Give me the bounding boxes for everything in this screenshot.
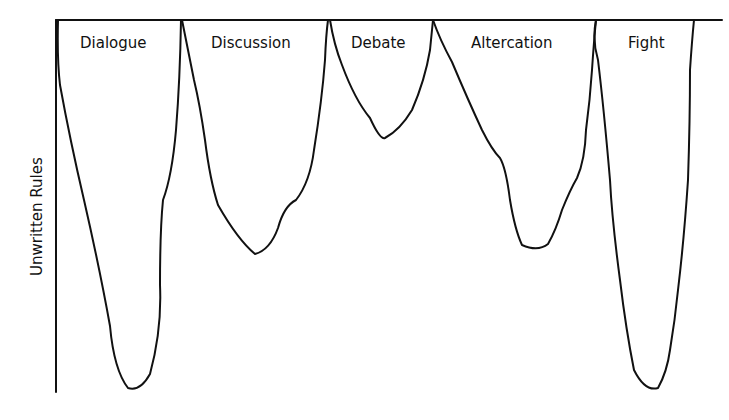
- category-label-fight: Fight: [628, 34, 665, 52]
- y-axis-label: Unwritten Rules: [28, 157, 46, 276]
- category-label-debate: Debate: [351, 34, 406, 52]
- funnel-discussion: [182, 20, 328, 254]
- funnel-altercation: [433, 20, 596, 248]
- category-label-altercation: Altercation: [471, 34, 553, 52]
- unwritten-rules-diagram: [0, 0, 729, 420]
- category-label-dialogue: Dialogue: [80, 34, 147, 52]
- funnel-fight: [594, 20, 694, 389]
- category-label-discussion: Discussion: [211, 34, 291, 52]
- funnel-dialogue: [58, 20, 181, 389]
